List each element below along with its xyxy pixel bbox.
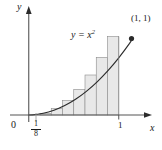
x-tick-label-one-eighth: 1 8	[30, 120, 42, 139]
curve-equation-base: y = x	[71, 29, 92, 40]
riemann-rect	[85, 75, 96, 115]
axis-label-x: x	[150, 123, 154, 133]
y-axis-arrowhead-icon	[26, 6, 32, 14]
fraction-denominator: 8	[30, 130, 42, 138]
axis-label-y: y	[17, 2, 21, 12]
riemann-sum-figure: y x 0 1 1 8 y = x2 (1, 1)	[0, 0, 162, 150]
point-marker-one-one	[129, 36, 134, 41]
riemann-rectangles	[40, 37, 119, 115]
origin-label: 0	[11, 120, 16, 130]
fraction-numerator: 1	[30, 120, 42, 128]
x-tick-label-one: 1	[118, 121, 123, 130]
curve-equation-label: y = x2	[71, 29, 95, 40]
riemann-rect	[63, 101, 74, 115]
x-axis-arrowhead-icon	[144, 112, 152, 118]
curve-equation-exponent: 2	[92, 28, 95, 35]
riemann-rect	[96, 57, 107, 115]
riemann-rect	[108, 37, 119, 115]
point-label-one-one: (1, 1)	[131, 14, 151, 23]
